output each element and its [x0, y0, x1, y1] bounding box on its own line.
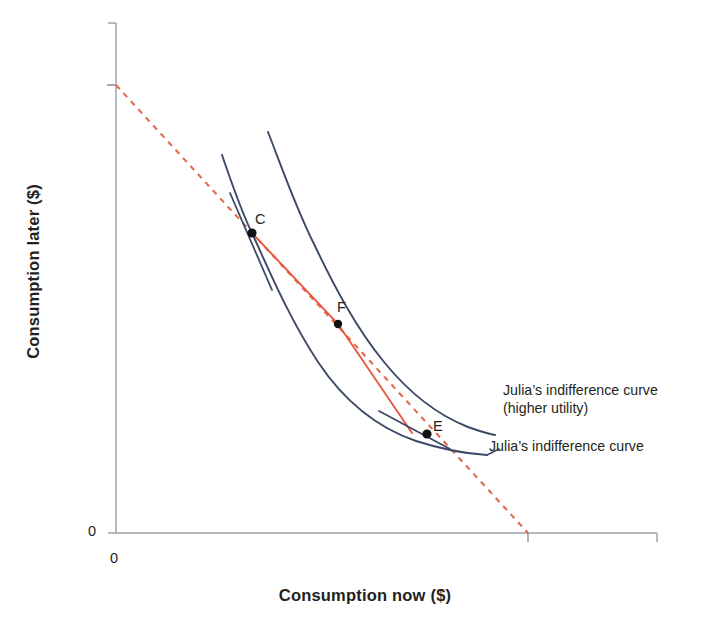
y-axis-title: Consumption later ($): [24, 152, 43, 392]
point-label-f: F: [337, 299, 346, 315]
point-marker-e: [422, 429, 431, 438]
legend-label-higher-utility-line1: Julia’s indifference curve: [503, 381, 658, 399]
indifference-curve-lower: [222, 155, 487, 455]
point-marker-c: [247, 228, 256, 237]
tangent-segment-at-c: [230, 193, 272, 290]
x-axis-title: Consumption now ($): [230, 586, 500, 605]
legend-label-higher-utility-curve: Julia’s indifference curve (higher utili…: [503, 381, 658, 417]
point-label-c: C: [255, 211, 265, 227]
x-axis-zero-tick-label: 0: [110, 550, 118, 566]
budget-constraint-dashed-line: [116, 85, 528, 533]
indifference-curve-chart: Consumption later ($) Consumption now ($…: [0, 0, 705, 626]
legend-label-higher-utility-line2: (higher utility): [503, 399, 658, 417]
axes-group: [107, 23, 657, 542]
legend-label-indifference-curve: Julia’s indifference curve: [489, 437, 644, 455]
chord-line-c-to-e: [252, 233, 412, 433]
chart-svg: [0, 0, 705, 626]
point-label-e: E: [433, 418, 443, 434]
point-marker-f: [334, 320, 342, 328]
y-axis-zero-tick-label: 0: [88, 523, 96, 539]
